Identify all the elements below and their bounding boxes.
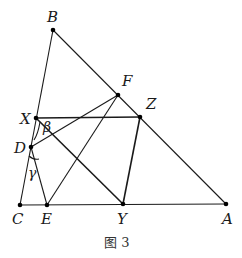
label-Z: Z — [145, 95, 157, 113]
segment-ZY — [123, 117, 140, 204]
point-E — [45, 203, 50, 208]
point-D — [29, 145, 34, 150]
label-C: C — [12, 210, 24, 228]
point-Z — [138, 115, 143, 120]
label-E: E — [40, 210, 52, 228]
point-C — [18, 203, 23, 208]
label-X: X — [19, 110, 32, 128]
angle-label-beta: β — [42, 119, 51, 135]
point-B — [51, 28, 56, 33]
label-D: D — [13, 139, 26, 157]
point-X — [34, 116, 39, 121]
point-A — [224, 202, 229, 207]
label-F: F — [121, 72, 133, 90]
segment-XZ — [36, 117, 140, 118]
geometry-figure: B F X Z D C E Y A β γ 图 3 — [0, 0, 242, 258]
angle-label-gamma: γ — [28, 165, 37, 181]
label-B: B — [46, 8, 58, 26]
point-F — [116, 93, 121, 98]
label-A: A — [220, 210, 233, 228]
figure-caption: 图 3 — [104, 235, 129, 250]
label-Y: Y — [117, 210, 129, 228]
point-Y — [121, 202, 126, 207]
